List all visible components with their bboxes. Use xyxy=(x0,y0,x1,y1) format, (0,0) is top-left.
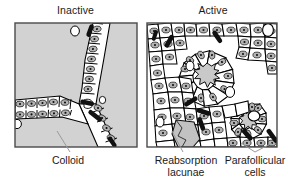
label-parafollicular-line1: Parafollicular xyxy=(225,154,286,166)
label-colloid: Colloid xyxy=(38,154,98,166)
label-reabsorption-lacunae: Reabsorption lacunae xyxy=(148,154,224,178)
panel-inactive xyxy=(13,23,137,148)
label-parafollicular-cells: Parafollicular cells xyxy=(224,154,286,178)
panel-active xyxy=(147,23,279,147)
label-lacunae-line1: Reabsorption xyxy=(155,154,217,166)
label-parafollicular-line2: cells xyxy=(244,166,265,178)
thyroid-follicle-figure: Inactive Active xyxy=(0,0,288,189)
label-lacunae-line2: lacunae xyxy=(168,166,205,178)
